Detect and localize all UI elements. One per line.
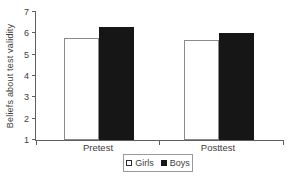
x-category-label-pretest: Pretest bbox=[66, 142, 130, 153]
legend-item-boys: Boys bbox=[161, 158, 190, 168]
y-tick-mark bbox=[32, 11, 36, 12]
x-tick-mark bbox=[283, 141, 284, 145]
y-tick-mark bbox=[32, 139, 36, 140]
y-tick-mark bbox=[32, 54, 36, 55]
y-tick-label: 4 bbox=[13, 71, 29, 81]
bar-posttest-girls bbox=[184, 40, 219, 140]
bar-pretest-girls bbox=[64, 38, 99, 140]
girls-swatch-icon bbox=[126, 160, 132, 166]
plot-area: 1234567 bbox=[35, 12, 284, 141]
legend-item-girls: Girls bbox=[126, 158, 154, 168]
y-tick-label: 1 bbox=[13, 135, 29, 145]
legend-label-boys: Boys bbox=[170, 158, 190, 168]
y-tick-label: 6 bbox=[13, 28, 29, 38]
y-tick-mark bbox=[32, 75, 36, 76]
y-tick-label: 3 bbox=[13, 92, 29, 102]
bar-posttest-boys bbox=[219, 33, 254, 140]
bar-pretest-boys bbox=[99, 27, 134, 140]
y-tick-label: 2 bbox=[13, 114, 29, 124]
y-tick-mark bbox=[32, 96, 36, 97]
y-tick-label: 5 bbox=[13, 50, 29, 60]
y-tick-label: 7 bbox=[13, 7, 29, 17]
bar-chart: Beliefs about test validity 1234567 Pret… bbox=[0, 0, 290, 185]
y-tick-mark bbox=[32, 32, 36, 33]
legend-label-girls: Girls bbox=[135, 158, 154, 168]
legend: Girls Boys bbox=[123, 154, 193, 172]
x-tick-mark bbox=[36, 141, 37, 145]
boys-swatch-icon bbox=[161, 160, 167, 166]
y-tick-mark bbox=[32, 118, 36, 119]
x-category-label-posttest: Posttest bbox=[186, 142, 250, 153]
x-tick-mark bbox=[159, 141, 160, 145]
